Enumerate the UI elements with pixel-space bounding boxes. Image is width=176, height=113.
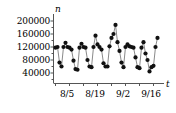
data-point [109,36,113,40]
data-point [153,45,157,49]
data-point [111,32,115,36]
data-point [83,46,87,50]
y-axis-name: n [55,5,61,14]
x-tick-label: 8/5 [53,90,81,99]
data-point [119,61,123,65]
y-tick-label: 120000 [0,43,50,52]
x-tick-label: 9/16 [137,90,165,99]
y-tick-label: 40000 [0,69,50,78]
y-tick-label: 160000 [0,30,50,39]
y-tick-label: 80000 [0,56,50,65]
data-point [121,65,125,69]
data-point [139,46,143,50]
data-point [145,58,149,62]
data-point [143,51,147,55]
data-point [131,46,135,50]
data-point [75,68,79,72]
data-point [117,49,121,53]
data-point [113,23,117,27]
data-point [77,46,81,50]
data-point [85,58,89,62]
data-point [147,69,151,73]
data-point [59,64,63,68]
x-tick-label: 9/2 [109,90,137,99]
y-tick-label: 200000 [0,17,50,26]
data-point [99,48,103,52]
data-point [151,64,155,68]
data-point [61,45,65,49]
data-point [155,36,159,40]
data-point [107,44,111,48]
x-axis-name: t [166,80,170,89]
data-point [71,59,75,63]
data-point [141,40,145,44]
data-point [91,45,95,49]
data-point [105,64,109,68]
data-series-markers [53,23,159,74]
data-point [93,34,97,38]
data-point [63,41,67,45]
data-point [69,48,73,52]
x-tick-label: 8/19 [81,90,109,99]
data-point [89,65,93,69]
data-point [57,61,61,65]
data-point [115,40,119,44]
data-point [137,66,141,70]
chart-figure: n t 200000 160000 120000 80000 40000 8/5… [0,0,176,113]
data-point [55,45,59,49]
data-point [133,55,137,59]
